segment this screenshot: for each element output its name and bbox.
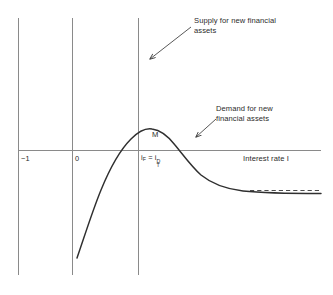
tick-label-negative-one: −1 — [21, 154, 30, 164]
equilibrium-i2-subscript: T — [156, 162, 159, 169]
x-axis-label: Interest rate I — [243, 154, 289, 164]
demand-curve — [77, 129, 321, 258]
tick-label-equilibrium-interest-rate: iF = iDT — [141, 153, 160, 164]
maximum-point-label: M — [152, 130, 158, 140]
chart-canvas — [0, 0, 333, 295]
supply-arrow — [150, 27, 191, 59]
tick-label-zero: 0 — [75, 154, 79, 164]
demand-annotation-label: Demand for new financial assets — [216, 104, 273, 125]
supply-annotation-label: Supply for new financial assets — [194, 16, 276, 37]
equilibrium-equals-sign: = — [146, 153, 155, 162]
economics-figure: Supply for new financial assets Demand f… — [0, 0, 333, 295]
demand-arrow — [196, 119, 216, 137]
